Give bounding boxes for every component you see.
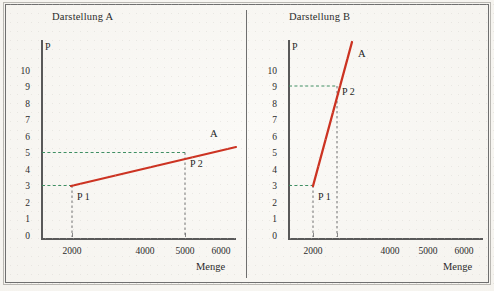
panel-b-curve-line: [313, 42, 352, 186]
panel-a-curve-label: A: [210, 128, 218, 139]
panel-a-plot-area: [0, 0, 247, 291]
panel-b-curve-label: A: [358, 48, 366, 59]
panel-darstellung-b: Darstellung B P Menge 10 9 8 7 6 5 4 3 2…: [247, 0, 494, 291]
figure-root: Darstellung A P Menge 10 9 8 7 6 5 4 3 2…: [0, 0, 494, 291]
panel-b-plot-area: [247, 0, 494, 291]
panel-b-point-label-p2: P 2: [342, 86, 355, 97]
panel-a-point-label-p2: P 2: [190, 158, 203, 169]
panel-darstellung-a: Darstellung A P Menge 10 9 8 7 6 5 4 3 2…: [0, 0, 247, 291]
panel-a-point-label-p1: P 1: [77, 191, 90, 202]
panel-a-curve-line: [71, 147, 236, 186]
panel-b-point-label-p1: P 1: [318, 191, 331, 202]
